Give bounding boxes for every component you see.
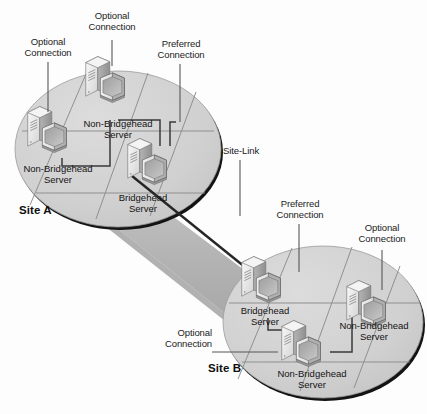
server-label-a-nbh-left: Non-Bridgehead Server	[8, 163, 108, 185]
callout-optional-a-left: Optional Connection	[4, 36, 92, 58]
server-label-a-bh: Bridgehead Server	[100, 192, 186, 214]
site-topology-graphic	[0, 0, 427, 414]
callout-optional-b-left: Optional Connection	[124, 327, 212, 349]
callout-preferred-a: Preferred Connection	[136, 38, 226, 60]
site-b-label: Site B	[208, 362, 241, 374]
callout-optional-b-right: Optional Connection	[338, 222, 426, 244]
server-label-b-nbh-right: Non-Bridgehead Server	[324, 320, 424, 342]
server-label-b-nbh-bot: Non-Bridgehead Server	[262, 368, 362, 390]
site-a-label: Site A	[19, 204, 52, 216]
callout-site-link: Site-Link	[202, 145, 280, 156]
server-label-b-bh: Bridgehead Server	[222, 305, 308, 327]
callout-optional-a-top: Optional Connection	[68, 10, 156, 32]
server-label-a-nbh-top: Non-Bridgehead Server	[68, 118, 168, 140]
callout-preferred-b: Preferred Connection	[255, 198, 345, 220]
diagram-canvas: Optional Connection Optional Connection …	[0, 0, 427, 414]
